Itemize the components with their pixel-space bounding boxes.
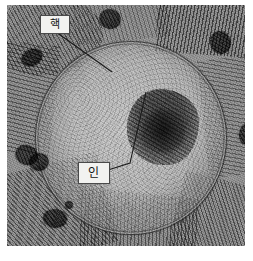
film-grain-layer [7,5,245,246]
label-text-nucleus: 핵 [50,19,61,30]
label-text-nucleolus: 인 [88,167,100,179]
electron-micrograph-plate [7,5,245,246]
label-callout-nucleolus: 인 [78,162,110,184]
label-callout-nucleus: 핵 [40,15,70,34]
micrograph-figure: 핵 인 [0,0,253,261]
